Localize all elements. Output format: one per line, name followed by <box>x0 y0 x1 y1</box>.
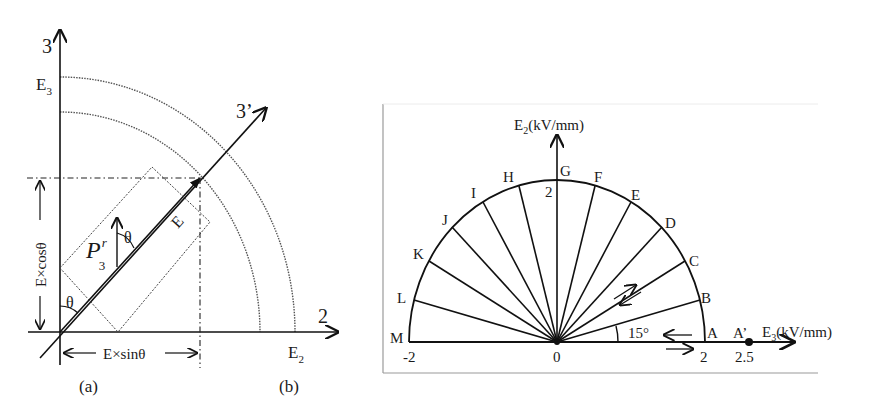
label-h: H <box>503 169 514 185</box>
label-l: L <box>397 290 406 306</box>
angle-arc-15 <box>616 326 618 342</box>
spoke-h <box>519 186 557 342</box>
label-c: C <box>689 253 699 269</box>
field-vector-e <box>60 178 200 332</box>
tick-x-extra: 2.5 <box>735 349 754 365</box>
label-f: F <box>594 169 602 185</box>
label-b: B <box>701 290 711 306</box>
y-axis-label: E2(kV/mm) <box>514 117 584 136</box>
caption-b: (b) <box>279 377 299 396</box>
e2-label: E2 <box>288 343 304 365</box>
axis-3-prime-label: 3’ <box>236 100 253 122</box>
label-j: J <box>442 212 448 228</box>
arrow-down-left <box>620 292 641 305</box>
ecos-label: E×cosθ <box>33 242 49 287</box>
polarization-label: Pr3 <box>85 235 108 273</box>
spoke-k <box>429 261 557 342</box>
axis-3-label: 3 <box>42 35 52 57</box>
angle-label: 15° <box>628 325 649 341</box>
label-k: K <box>413 246 424 262</box>
spoke-f <box>557 186 595 342</box>
label-a-prime: A’ <box>733 325 747 341</box>
caption-a: (a) <box>79 377 98 396</box>
label-g: G <box>560 163 571 179</box>
theta-origin-label: θ <box>66 294 74 311</box>
panel-b: E2(kV/mm) E3(kV/mm) A B C D E F G H I J … <box>383 104 832 373</box>
tick-origin: 0 <box>553 349 561 365</box>
label-i: I <box>471 185 476 201</box>
label-m: M <box>390 330 403 346</box>
tick-y-top: 2 <box>545 184 553 200</box>
figure-canvas: 3 2 3’ E3 E2 E Pr3 θ θ E×cosθ E×sinθ (a)… <box>0 0 874 417</box>
label-a: A <box>707 325 718 341</box>
panel-a: 3 2 3’ E3 E2 E Pr3 θ θ E×cosθ E×sinθ (a)… <box>27 30 338 396</box>
axis-3-prime <box>40 108 266 358</box>
label-d: D <box>665 215 676 231</box>
tick-x-pos: 2 <box>700 349 708 365</box>
label-e: E <box>631 187 640 203</box>
tick-x-neg: -2 <box>403 349 416 365</box>
esin-label: E×sinθ <box>103 346 145 362</box>
x-axis-label: E3(kV/mm) <box>762 324 832 343</box>
axis-2-label: 2 <box>318 305 328 327</box>
e3-label: E3 <box>36 75 52 97</box>
spoke-l <box>414 300 557 342</box>
spoke-c <box>557 261 685 342</box>
field-vector-label: E <box>168 212 187 231</box>
theta-polarization-label: θ <box>124 229 132 246</box>
